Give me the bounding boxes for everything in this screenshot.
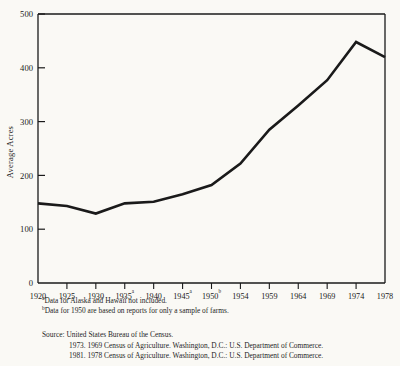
y-axis-label: Average Acres <box>5 107 15 197</box>
footnote-a: aData for Alaska and Hawaii not included… <box>42 296 398 306</box>
footnote-b: bData for 1950 are based on reports for … <box>42 306 398 316</box>
y-axis-label-wrap: Average Acres <box>2 110 18 200</box>
footnote-a-text: Data for Alaska and Hawaii not included. <box>44 296 167 305</box>
source-block: Source: United States Bureau of the Cens… <box>42 330 400 362</box>
footnotes: aData for Alaska and Hawaii not included… <box>42 296 398 315</box>
y-tick-label: 0 <box>29 278 33 288</box>
source-line-1: Source: United States Bureau of the Cens… <box>42 330 400 341</box>
chart-plot-area: 01002003004005001920192519301935a1940194… <box>0 0 400 300</box>
y-tick-label: 500 <box>20 9 33 19</box>
figure-chart-average-acres: 01002003004005001920192519301935a1940194… <box>0 0 400 366</box>
y-tick-label: 100 <box>20 224 33 234</box>
y-tick-label: 300 <box>20 117 33 127</box>
source-line-3: 1981. 1978 Census of Agriculture. Washin… <box>42 351 400 362</box>
footnote-b-text: Data for 1950 are based on reports for o… <box>45 306 229 315</box>
line-chart-svg: 01002003004005001920192519301935a1940194… <box>0 0 400 300</box>
data-series-line <box>38 42 385 214</box>
y-tick-label: 400 <box>20 63 33 73</box>
source-line-2: 1973. 1969 Census of Agriculture. Washin… <box>42 341 400 352</box>
y-tick-label: 200 <box>20 171 33 181</box>
